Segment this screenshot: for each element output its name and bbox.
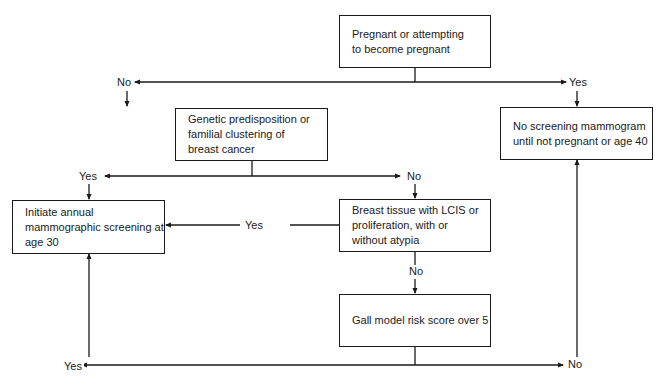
node-genetic: Genetic predisposition or familial clust… [175, 108, 328, 161]
label-tissue-no: No [407, 265, 425, 278]
node-initiate-text: Initiate annual mammographic screening a… [25, 205, 164, 250]
label-genetic-yes: Yes [77, 170, 99, 183]
node-pregnant-text: Pregnant or attempting to become pregnan… [352, 27, 472, 57]
label-tissue-yes: Yes [240, 219, 268, 232]
label-pregnant-no: No [115, 76, 133, 89]
node-no-screening-text: No screening mammogram until not pregnan… [513, 119, 648, 149]
node-genetic-text: Genetic predisposition or familial clust… [188, 112, 313, 157]
connector-lines [0, 0, 662, 379]
label-pregnant-yes: Yes [567, 76, 589, 89]
label-gall-yes: Yes [62, 360, 84, 373]
node-initiate: Initiate annual mammographic screening a… [12, 200, 165, 254]
node-no-screening: No screening mammogram until not pregnan… [500, 107, 653, 160]
label-genetic-no: No [405, 170, 423, 183]
node-gall-text: Gall model risk score over 5 [352, 313, 490, 328]
node-gall: Gall model risk score over 5 [339, 294, 491, 347]
node-tissue-text: Breast tissue with LCIS or proliferation… [352, 203, 480, 248]
node-tissue: Breast tissue with LCIS or proliferation… [339, 199, 491, 252]
label-gall-no: No [566, 358, 584, 371]
node-pregnant: Pregnant or attempting to become pregnan… [339, 15, 491, 68]
